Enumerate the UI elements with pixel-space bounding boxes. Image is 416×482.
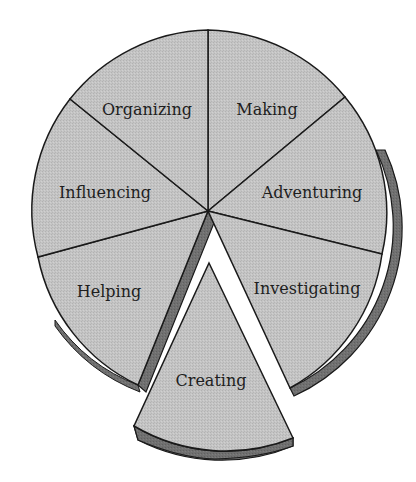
- label-influencing: Influencing: [59, 183, 151, 202]
- label-creating: Creating: [176, 371, 247, 390]
- label-investigating: Investigating: [254, 279, 361, 298]
- label-adventuring: Adventuring: [261, 183, 363, 202]
- pie-chart: Organizing Making Influencing Adventurin…: [0, 0, 416, 482]
- label-helping: Helping: [77, 282, 141, 301]
- label-making: Making: [236, 100, 297, 119]
- label-organizing: Organizing: [102, 100, 192, 119]
